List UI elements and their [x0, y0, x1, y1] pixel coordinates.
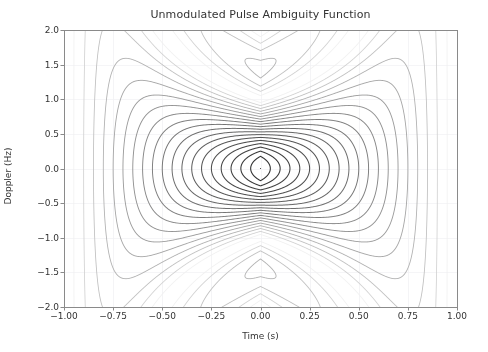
- y-axis-label: Doppler (Hz): [0, 0, 16, 352]
- y-axis-label-text: Doppler (Hz): [3, 148, 13, 205]
- contour-plot-canvas: [0, 0, 488, 352]
- page-title: Unmodulated Pulse Ambiguity Function: [64, 8, 457, 21]
- matplotlib-figure: Unmodulated Pulse Ambiguity Function Tim…: [0, 0, 488, 352]
- x-axis-label: Time (s): [64, 331, 457, 341]
